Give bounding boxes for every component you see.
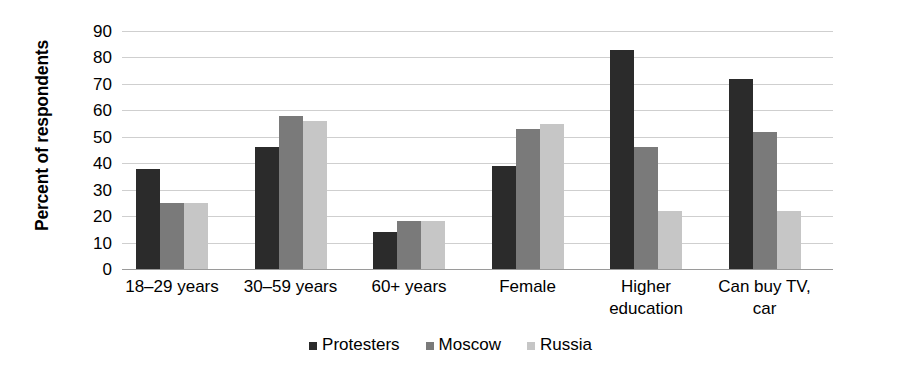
bar-group <box>136 31 208 269</box>
bar <box>279 116 303 269</box>
axis-baseline <box>122 269 833 270</box>
chart-legend: ProtestersMoscowRussia <box>0 336 901 353</box>
bar <box>610 50 634 269</box>
legend-swatch-icon <box>426 342 434 350</box>
bar <box>540 124 564 269</box>
bar-group <box>610 31 682 269</box>
bar <box>373 232 397 269</box>
bars-layer <box>122 31 833 269</box>
y-axis-tick-label: 10 <box>72 234 112 251</box>
bar <box>421 221 445 269</box>
y-axis-tick-label: 40 <box>72 155 112 172</box>
bar-chart: Percent of respondents 90807060504030201… <box>0 0 901 367</box>
y-axis-tick-label: 80 <box>72 49 112 66</box>
y-axis-tick-label: 20 <box>72 208 112 225</box>
bar-group <box>255 31 327 269</box>
legend-label: Russia <box>540 336 592 353</box>
legend-label: Protesters <box>322 336 399 353</box>
bar <box>184 203 208 269</box>
y-axis-tick-label: 70 <box>72 75 112 92</box>
x-axis-category-labels: 18–29 years30–59 years60+ yearsFemaleHig… <box>122 276 833 328</box>
y-axis-tick-label: 50 <box>72 128 112 145</box>
x-axis-category-label-line: car <box>695 298 835 320</box>
bar <box>516 129 540 269</box>
y-axis-title: Percent of respondents <box>32 6 53 266</box>
bar-group <box>729 31 801 269</box>
y-axis-tick-labels: 9080706050403020100 <box>72 31 112 269</box>
y-axis-tick-label: 30 <box>72 181 112 198</box>
bar <box>136 169 160 269</box>
y-axis-tick-label: 0 <box>72 261 112 278</box>
legend-item[interactable]: Moscow <box>426 336 501 353</box>
x-axis-category-label-line: Can buy TV, <box>695 276 835 298</box>
bar <box>397 221 421 269</box>
x-axis-category-label: Can buy TV,car <box>695 276 835 320</box>
bar <box>658 211 682 269</box>
bar <box>753 132 777 270</box>
legend-item[interactable]: Russia <box>527 336 592 353</box>
bar-group <box>373 31 445 269</box>
legend-label: Moscow <box>439 336 501 353</box>
bar <box>777 211 801 269</box>
bar <box>255 147 279 269</box>
bar <box>634 147 658 269</box>
bar-group <box>492 31 564 269</box>
bar <box>729 79 753 269</box>
y-axis-tick-label: 60 <box>72 102 112 119</box>
y-axis-tick-label: 90 <box>72 23 112 40</box>
bar <box>160 203 184 269</box>
legend-swatch-icon <box>309 342 317 350</box>
bar <box>492 166 516 269</box>
legend-item[interactable]: Protesters <box>309 336 399 353</box>
legend-swatch-icon <box>527 342 535 350</box>
bar <box>303 121 327 269</box>
